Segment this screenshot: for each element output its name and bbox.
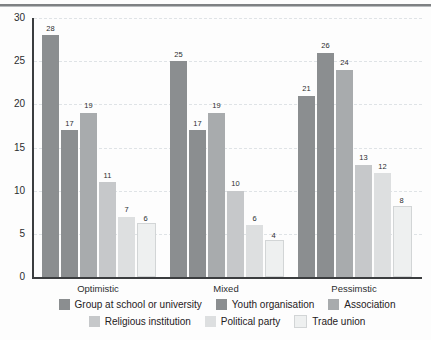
plot-area: 051015202530 281719117625171910642126241… — [32, 18, 422, 277]
bar[interactable]: 24 — [336, 70, 353, 277]
bar-fill — [61, 130, 78, 277]
legend-row-bottom: Religious institutionPolitical partyTrad… — [32, 313, 422, 330]
y-tick-label: 25 — [14, 56, 25, 66]
legend-swatch — [328, 299, 339, 310]
bar-value-label: 6 — [252, 215, 256, 223]
bar-value-label: 26 — [321, 42, 329, 50]
bar-fill — [246, 225, 263, 277]
bar[interactable]: 11 — [99, 182, 116, 277]
bar-fill — [298, 96, 315, 277]
chart-legend: Group at school or universityYouth organ… — [32, 296, 422, 330]
bar-value-label: 24 — [340, 59, 348, 67]
legend-swatch — [205, 316, 216, 327]
bar-fill — [99, 182, 116, 277]
bar-group: 2517191064 — [170, 18, 282, 277]
legend-item[interactable]: Association — [328, 299, 395, 310]
bar[interactable]: 25 — [170, 61, 187, 277]
bar-fill — [265, 240, 284, 277]
legend-label: Trade union — [312, 317, 365, 327]
legend-swatch — [89, 316, 100, 327]
bar-value-label: 7 — [124, 206, 128, 214]
bar-value-label: 19 — [84, 102, 92, 110]
legend-item[interactable]: Youth organisation — [216, 299, 314, 310]
category-label: Mixed — [213, 283, 238, 294]
bar-value-label: 13 — [359, 154, 367, 162]
bar[interactable]: 12 — [374, 173, 391, 277]
bar-fill — [189, 130, 206, 277]
bar-value-label: 21 — [302, 85, 310, 93]
bar[interactable]: 19 — [80, 113, 97, 277]
legend-label: Political party — [221, 317, 280, 327]
legend-item[interactable]: Group at school or university — [59, 299, 202, 310]
page-top-rule-secondary — [0, 6, 431, 7]
legend-item[interactable]: Trade union — [294, 315, 365, 328]
bar-fill — [374, 173, 391, 277]
bar[interactable]: 13 — [355, 165, 372, 277]
legend-label: Association — [344, 300, 395, 310]
bar[interactable]: 10 — [227, 191, 244, 277]
bar-value-label: 17 — [65, 120, 73, 128]
y-tick-label: 10 — [14, 186, 25, 196]
bar-fill — [80, 113, 97, 277]
bar-value-label: 19 — [212, 102, 220, 110]
bar[interactable]: 6 — [246, 225, 263, 277]
bar[interactable]: 26 — [317, 53, 334, 277]
category-label: Optimistic — [77, 283, 119, 294]
legend-label: Group at school or university — [75, 300, 202, 310]
x-axis-line — [32, 277, 422, 279]
y-tick-label: 5 — [19, 229, 25, 239]
bar-value-label: 6 — [143, 215, 147, 223]
legend-label: Religious institution — [105, 317, 191, 327]
bar-value-label: 4 — [271, 232, 275, 240]
y-tick-label: 15 — [14, 143, 25, 153]
bar-value-label: 28 — [46, 25, 54, 33]
bar-fill — [170, 61, 187, 277]
legend-item[interactable]: Religious institution — [89, 316, 191, 327]
y-tick-label: 0 — [19, 272, 25, 282]
bar-fill — [208, 113, 225, 277]
bar-value-label: 12 — [378, 163, 386, 171]
bar[interactable]: 7 — [118, 217, 135, 277]
bar-group: 2817191176 — [42, 18, 154, 277]
bar-value-label: 10 — [231, 180, 239, 188]
bar-fill — [227, 191, 244, 277]
legend-swatch — [59, 299, 70, 310]
bar-fill — [336, 70, 353, 277]
bar-fill — [355, 165, 372, 277]
bar[interactable]: 17 — [61, 130, 78, 277]
y-tick-label: 20 — [14, 99, 25, 109]
bar[interactable]: 4 — [265, 242, 282, 277]
bar[interactable]: 19 — [208, 113, 225, 277]
bar-value-label: 25 — [174, 51, 182, 59]
legend-label: Youth organisation — [232, 300, 314, 310]
category-label: Pessimstic — [331, 283, 376, 294]
legend-row-top: Group at school or universityYouth organ… — [32, 296, 422, 313]
bar-fill — [393, 206, 412, 277]
bar[interactable]: 6 — [137, 225, 154, 277]
bar-fill — [42, 35, 59, 277]
bar-fill — [317, 53, 334, 277]
bar[interactable]: 28 — [42, 35, 59, 277]
bar[interactable]: 17 — [189, 130, 206, 277]
bar-fill — [118, 217, 135, 277]
bar-group: 21262413128 — [298, 18, 410, 277]
bar[interactable]: 21 — [298, 96, 315, 277]
legend-item[interactable]: Political party — [205, 316, 280, 327]
bar-value-label: 11 — [104, 172, 112, 180]
chart-page: 051015202530 281719117625171910642126241… — [0, 0, 431, 340]
legend-swatch — [216, 299, 227, 310]
y-tick-label: 30 — [14, 13, 25, 23]
bar-value-label: 8 — [399, 197, 403, 205]
bar-value-label: 17 — [193, 120, 201, 128]
legend-swatch — [294, 315, 307, 328]
bar-fill — [137, 223, 156, 277]
bar[interactable]: 8 — [393, 208, 410, 277]
